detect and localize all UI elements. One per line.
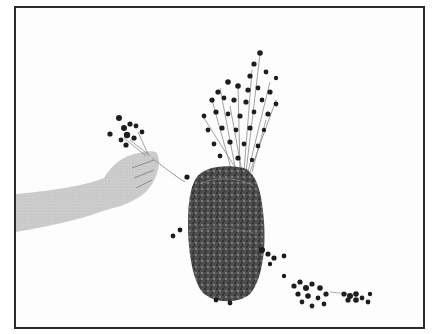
loose-flower-cluster-right bbox=[330, 291, 372, 304]
photograph bbox=[0, 0, 432, 334]
hand-and-arm bbox=[16, 151, 185, 232]
loose-flower-cluster-left bbox=[291, 279, 328, 308]
flower-spray bbox=[202, 50, 279, 172]
flower-bunch-in-hand bbox=[107, 115, 150, 156]
moss-form bbox=[171, 166, 287, 305]
